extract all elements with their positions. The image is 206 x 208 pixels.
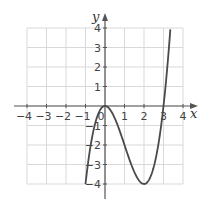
- y-axis-label: y: [91, 9, 100, 24]
- y-tick-label: 1: [94, 81, 101, 94]
- y-tick-label: −4: [85, 178, 101, 191]
- x-axis-label: x: [190, 106, 198, 121]
- x-tick-label: −3: [35, 110, 51, 123]
- cubic-function-graph: −4−3−2−101234−4−3−2−11234 x y: [0, 0, 206, 208]
- y-axis-arrow-icon: [102, 13, 108, 21]
- y-tick-label: 2: [94, 61, 101, 74]
- y-tick-label: 3: [94, 42, 101, 55]
- x-tick-label: 1: [121, 110, 128, 123]
- x-tick-label: 2: [141, 110, 148, 123]
- x-tick-label: −2: [55, 110, 71, 123]
- x-tick-label: −4: [16, 110, 32, 123]
- y-tick-label: −2: [85, 139, 101, 152]
- x-tick-label: 4: [180, 110, 187, 123]
